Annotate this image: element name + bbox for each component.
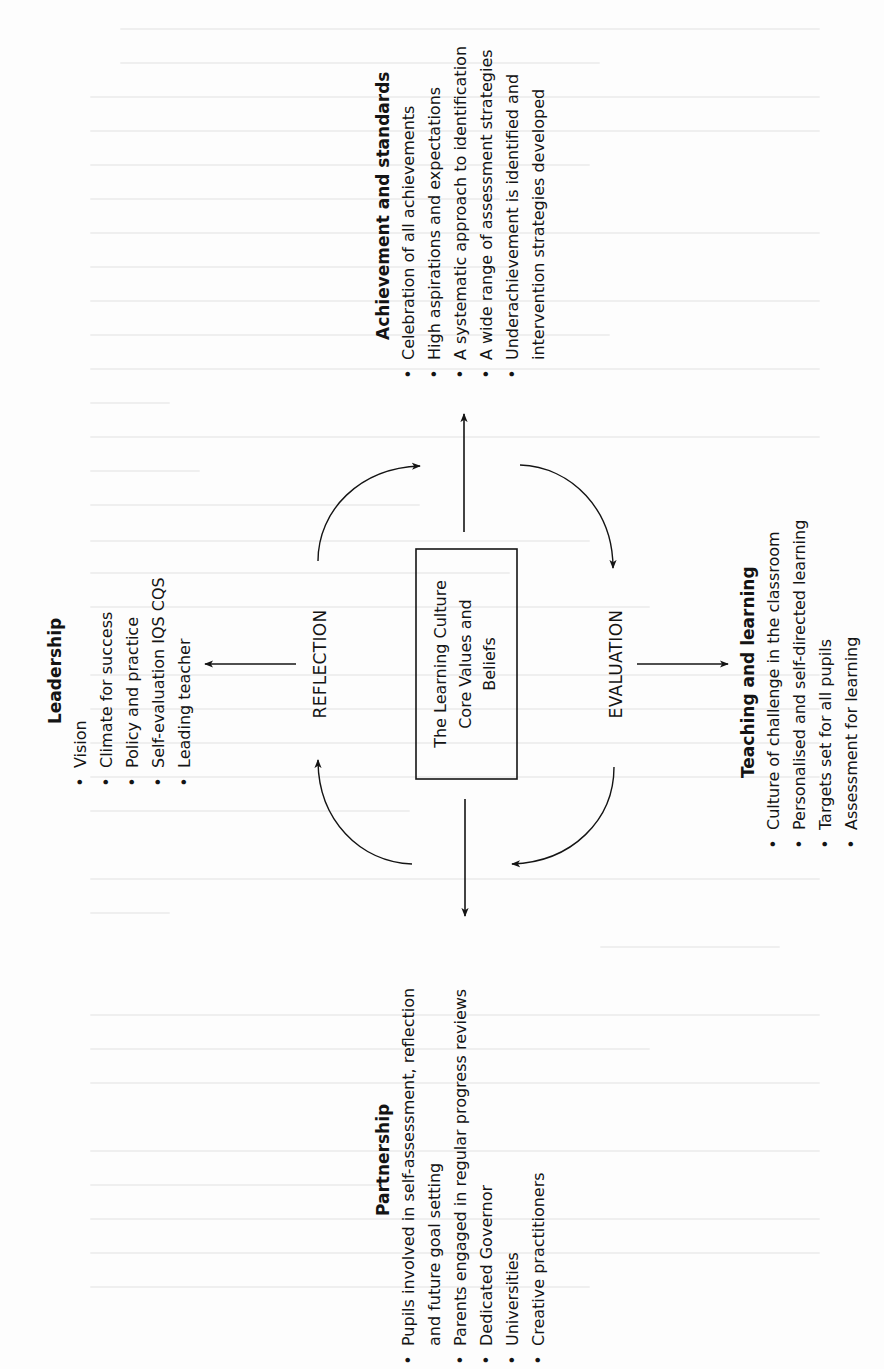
evaluation-label: EVALUATION: [605, 597, 627, 731]
list-item: •Climate for success: [94, 577, 120, 790]
section-teaching: Teaching and learning •Culture of challe…: [737, 520, 865, 852]
list-item: •Personalised and self-directed learning: [787, 520, 813, 852]
bullet-icon: •: [761, 836, 787, 852]
bullet-icon: •: [448, 366, 474, 382]
achievement-heading: Achievement and standards: [372, 46, 394, 340]
section-partnership: Partnership •Pupils involved in self-ass…: [372, 988, 552, 1368]
leadership-list: •Vision •Climate for success •Policy and…: [68, 577, 198, 790]
curve-arrow-top-right: [520, 465, 613, 568]
list-item: •Creative practitioners: [526, 988, 552, 1368]
bullet-icon: •: [500, 1352, 526, 1368]
curve-arrow-bottom-right: [512, 767, 614, 864]
bullet-icon: •: [146, 774, 172, 790]
bullet-icon: •: [422, 366, 448, 382]
bullet-icon: •: [813, 836, 839, 852]
curve-arrow-top-left: [318, 466, 420, 561]
list-item: •Assessment for learning: [839, 520, 865, 852]
list-item: •Culture of challenge in the classroom: [761, 520, 787, 852]
teaching-list: •Culture of challenge in the classroom •…: [761, 520, 865, 852]
list-item: •Policy and practice: [120, 577, 146, 790]
list-item: •Universities: [500, 988, 526, 1368]
core-line-2: Core Values and: [454, 549, 479, 779]
list-item: •Parents engaged in regular progress rev…: [448, 988, 474, 1368]
bullet-icon: •: [500, 366, 526, 382]
partnership-list: •Pupils involved in self-assessment, ref…: [396, 988, 552, 1368]
list-item: •A wide range of assessment strategies: [474, 46, 500, 382]
list-item: •Vision: [68, 577, 94, 790]
teaching-heading: Teaching and learning: [737, 520, 759, 778]
list-item: •Self-evaluation IQS CQS: [146, 577, 172, 790]
bullet-icon: •: [839, 836, 865, 852]
bullet-icon: •: [474, 1352, 500, 1368]
bullet-icon: •: [396, 1352, 422, 1368]
list-item-continuation: and future goal setting: [422, 988, 448, 1368]
curve-arrow-bottom-left: [318, 760, 412, 864]
core-values-label: The Learning Culture Core Values and Bel…: [416, 549, 516, 779]
section-leadership: Leadership •Vision •Climate for success …: [44, 577, 198, 790]
bullet-icon: •: [120, 774, 146, 790]
core-line-1: The Learning Culture: [429, 549, 454, 779]
list-item: •Leading teacher: [172, 577, 198, 790]
core-line-3: Beliefs: [478, 549, 503, 779]
section-achievement: Achievement and standards •Celebration o…: [372, 46, 552, 382]
bullet-icon: •: [396, 366, 422, 382]
list-item: •Dedicated Governor: [474, 988, 500, 1368]
bullet-icon: •: [787, 836, 813, 852]
list-item: •Targets set for all pupils: [813, 520, 839, 852]
bullet-icon: •: [448, 1352, 474, 1368]
list-item-continuation: intervention strategies developed: [526, 46, 552, 382]
bullet-icon: •: [94, 774, 120, 790]
partnership-heading: Partnership: [372, 988, 394, 1216]
bullet-icon: •: [474, 366, 500, 382]
list-item: •High aspirations and expectations: [422, 46, 448, 382]
list-item: •Pupils involved in self-assessment, ref…: [396, 988, 422, 1368]
list-item: •A systematic approach to identification: [448, 46, 474, 382]
leadership-heading: Leadership: [44, 577, 66, 724]
list-item: •Underachievement is identified and: [500, 46, 526, 382]
reflection-label: REFLECTION: [309, 597, 331, 731]
achievement-list: •Celebration of all achievements •High a…: [396, 46, 552, 382]
bullet-icon: •: [526, 1352, 552, 1368]
bullet-icon: •: [68, 774, 94, 790]
bullet-icon: •: [172, 774, 198, 790]
list-item: •Celebration of all achievements: [396, 46, 422, 382]
